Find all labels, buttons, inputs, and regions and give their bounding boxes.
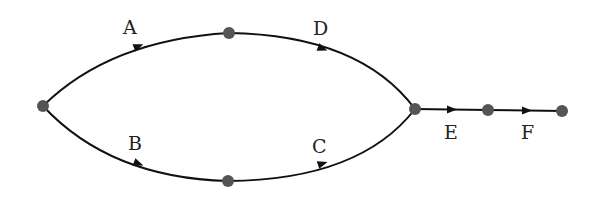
- arrow-f-icon: [522, 107, 532, 115]
- label-f: F: [521, 121, 534, 143]
- graph-canvas: A D B C E F: [0, 0, 602, 198]
- node-end: [556, 105, 568, 117]
- node-top: [223, 27, 235, 39]
- label-e: E: [444, 121, 458, 143]
- node-bottom: [222, 175, 234, 187]
- edge-a: [43, 33, 229, 106]
- node-junction: [409, 103, 421, 115]
- edge-d: [229, 33, 415, 109]
- label-d: D: [313, 17, 328, 39]
- label-c: C: [312, 135, 327, 157]
- node-mid: [482, 104, 494, 116]
- label-a: A: [122, 16, 137, 38]
- graph-diagram: A D B C E F: [0, 0, 602, 198]
- label-b: B: [128, 132, 142, 154]
- node-start: [37, 100, 49, 112]
- arrow-e-icon: [447, 106, 457, 114]
